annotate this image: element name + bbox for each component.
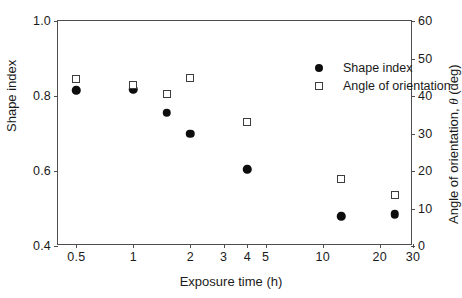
data-point-angle <box>391 191 399 199</box>
data-point-angle <box>129 81 137 89</box>
plot-area: 0.40.60.81.0 0102030405060 0.51234510203… <box>57 20 412 245</box>
legend-item-label: Angle of orientation <box>343 79 451 93</box>
y-axis-left-tick-label: 0.8 <box>33 89 51 103</box>
chart-legend: Shape indexAngle of orientation <box>309 59 451 95</box>
chart-figure: Shape index Angle of orientation, θ (deg… <box>0 0 462 298</box>
x-axis-tick <box>76 244 77 248</box>
x-axis-tick-label: 2 <box>187 250 194 264</box>
y-axis-right-tick-label: 10 <box>418 202 432 216</box>
data-point-angle <box>243 118 251 126</box>
y-axis-left-tick <box>54 21 58 22</box>
x-axis-tick-label: 4 <box>244 250 251 264</box>
x-axis-tick-label: 20 <box>373 250 387 264</box>
y-axis-left-tick-label: 0.6 <box>33 164 51 178</box>
data-point-shape-index <box>390 210 399 219</box>
x-axis-tick-label: 1 <box>130 250 137 264</box>
legend-marker-filled-circle-icon <box>309 64 329 73</box>
y-axis-right-tick-label: 20 <box>418 164 432 178</box>
y-axis-right-tick <box>411 171 415 172</box>
data-point-angle <box>72 75 80 83</box>
y-axis-right-tick <box>411 209 415 210</box>
x-axis-tick <box>190 244 191 248</box>
legend-item: Shape index <box>309 59 451 77</box>
data-point-shape-index <box>162 109 171 118</box>
y-axis-right-tick-label: 60 <box>418 14 432 28</box>
y-axis-left-tick-label: 0.4 <box>33 239 51 253</box>
x-axis-title: Exposure time (h) <box>0 274 462 289</box>
y-axis-left-tick <box>54 96 58 97</box>
data-point-angle <box>337 175 345 183</box>
y-axis-left-tick-label: 1.0 <box>33 14 51 28</box>
x-axis-tick <box>413 244 414 248</box>
x-axis-tick-label: 0.5 <box>67 250 85 264</box>
legend-item: Angle of orientation <box>309 77 451 95</box>
data-point-angle <box>163 90 171 98</box>
y-axis-left-tick <box>54 246 58 247</box>
x-axis-tick-label: 3 <box>220 250 227 264</box>
y-axis-left-tick <box>54 171 58 172</box>
x-axis-tick <box>266 244 267 248</box>
legend-item-label: Shape index <box>343 61 413 75</box>
y-axis-right-tick <box>411 21 415 22</box>
x-axis-tick <box>323 244 324 248</box>
data-point-angle <box>186 74 194 82</box>
x-axis-tick <box>224 244 225 248</box>
data-point-shape-index <box>337 212 346 221</box>
legend-marker-open-square-icon <box>309 82 329 90</box>
data-point-shape-index <box>186 129 195 138</box>
x-axis-tick <box>133 244 134 248</box>
x-axis-tick-label: 30 <box>406 250 420 264</box>
x-axis-tick-label: 10 <box>316 250 330 264</box>
y-axis-right-tick <box>411 134 415 135</box>
y-axis-right-tick <box>411 96 415 97</box>
x-axis-tick-label: 5 <box>262 250 269 264</box>
data-point-shape-index <box>243 165 252 174</box>
x-axis-tick <box>247 244 248 248</box>
y-axis-left-title: Shape index <box>4 60 19 132</box>
x-axis-tick <box>380 244 381 248</box>
y-axis-right-tick-label: 30 <box>418 127 432 141</box>
data-point-shape-index <box>72 86 81 95</box>
